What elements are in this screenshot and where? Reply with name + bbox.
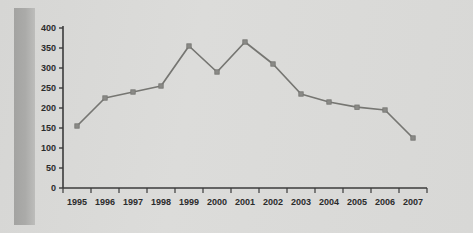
data-point-marker	[327, 100, 331, 104]
line-chart-plot: 050100150200250300350400 199519961997199…	[0, 0, 473, 233]
data-point-marker	[159, 84, 163, 88]
y-tick-label: 400	[41, 23, 56, 33]
x-tick-label: 2006	[375, 197, 395, 207]
y-tick-label: 300	[41, 63, 56, 73]
x-tick-label: 1998	[151, 197, 171, 207]
x-tick-label: 2005	[347, 197, 367, 207]
chart-figure: 050100150200250300350400 199519961997199…	[0, 0, 473, 233]
data-point-marker	[411, 136, 415, 140]
data-series	[75, 40, 415, 140]
x-tick-label: 2007	[403, 197, 423, 207]
y-tick-label: 50	[46, 163, 56, 173]
data-point-marker	[131, 90, 135, 94]
x-tick-label: 2000	[207, 197, 227, 207]
data-point-marker	[187, 44, 191, 48]
y-tick-labels: 050100150200250300350400	[41, 23, 56, 193]
y-tick-label: 350	[41, 43, 56, 53]
y-tick-label: 0	[51, 183, 56, 193]
y-tick-label: 200	[41, 103, 56, 113]
data-point-marker	[215, 70, 219, 74]
y-axis	[59, 26, 63, 188]
x-tick-label: 2004	[319, 197, 339, 207]
x-tick-label: 2002	[263, 197, 283, 207]
x-tick-label: 1997	[123, 197, 143, 207]
x-tick-label: 2001	[235, 197, 255, 207]
x-axis	[63, 188, 427, 193]
data-point-marker	[271, 62, 275, 66]
data-point-marker	[355, 105, 359, 109]
data-point-marker	[383, 108, 387, 112]
y-tick-label: 250	[41, 83, 56, 93]
y-tick-label: 150	[41, 123, 56, 133]
x-tick-labels: 1995199619971998199920002001200220032004…	[67, 197, 423, 207]
data-point-marker	[299, 92, 303, 96]
x-tick-label: 2003	[291, 197, 311, 207]
data-point-marker	[75, 124, 79, 128]
data-point-marker	[103, 96, 107, 100]
data-point-marker	[243, 40, 247, 44]
y-tick-label: 100	[41, 143, 56, 153]
x-tick-label: 1995	[67, 197, 87, 207]
x-tick-label: 1999	[179, 197, 199, 207]
x-tick-label: 1996	[95, 197, 115, 207]
